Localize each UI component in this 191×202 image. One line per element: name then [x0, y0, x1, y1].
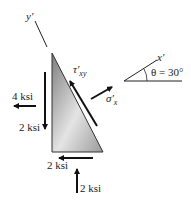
- left-horizontal-label: 4 ksi: [12, 90, 33, 102]
- y-prime-axis: [35, 21, 47, 47]
- angle-label: θ = 30°: [151, 66, 183, 78]
- x-prime-label: x′: [156, 51, 165, 63]
- stress-element-diagram: y′ τ′xy σ′x x′ θ = 30° 4 ksi 2 ksi 2 ksi…: [0, 0, 191, 202]
- angle-arc: [144, 69, 147, 81]
- bottom-horizontal-label: 2 ksi: [47, 159, 68, 171]
- sigma-label: σ′x: [106, 92, 118, 107]
- tau-label: τ′xy: [73, 63, 87, 78]
- left-vertical-label: 2 ksi: [19, 121, 40, 133]
- y-prime-label: y′: [25, 10, 34, 22]
- bottom-vertical-label: 2 ksi: [80, 182, 101, 194]
